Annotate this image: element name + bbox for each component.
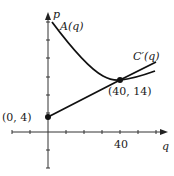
point-1-label: (0, 4) <box>2 111 32 124</box>
point-40-14 <box>117 77 123 83</box>
curve-c-label: C′(q) <box>133 50 160 63</box>
y-axis-label: p <box>53 8 60 21</box>
curve-a-label: A(q) <box>59 20 84 33</box>
x-axis-label: q <box>162 140 169 153</box>
point-2-label: (40, 14) <box>108 85 152 98</box>
y-axis-arrow-icon <box>45 12 51 20</box>
x-axis-arrow-icon <box>160 129 168 135</box>
point-0-4 <box>45 114 51 120</box>
chart: p A(q) C′(q) (0, 4) (40, 14) 40 q <box>0 0 174 176</box>
x-tick-40-label: 40 <box>114 138 128 151</box>
